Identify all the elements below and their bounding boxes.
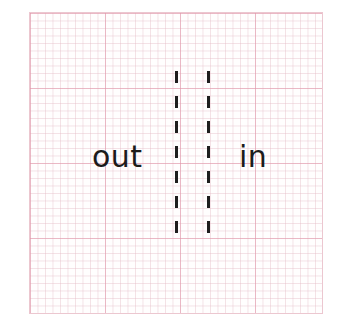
out-label: out	[92, 142, 143, 172]
boundary-dashed-line-left	[175, 71, 178, 245]
boundary-dashed-line-right	[207, 71, 210, 245]
in-label: in	[239, 142, 267, 172]
